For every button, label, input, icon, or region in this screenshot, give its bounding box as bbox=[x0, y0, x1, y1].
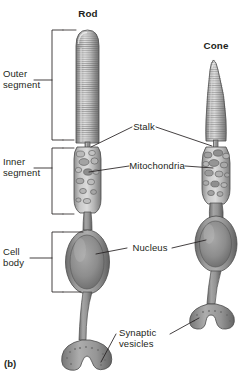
label-mitochondria: Mitochondria bbox=[128, 160, 186, 171]
cone-synaptic-terminal bbox=[190, 304, 235, 329]
rod-cell bbox=[62, 28, 112, 370]
rod-title: Rod bbox=[62, 8, 114, 19]
rod-cell-body bbox=[66, 230, 110, 294]
figure-caption: (b) bbox=[4, 358, 16, 369]
bracket-inner-segment bbox=[52, 148, 63, 214]
label-nucleus: Nucleus bbox=[128, 242, 172, 253]
cone-title: Cone bbox=[192, 40, 240, 51]
cone-nucleus bbox=[200, 221, 232, 267]
label-synaptic-vesicles: Synaptic vesicles bbox=[119, 327, 175, 349]
leader-stalk-cone bbox=[156, 127, 212, 146]
bracket-cell-body bbox=[52, 232, 63, 292]
photoreceptor-diagram: Rod Cone Outer segment Inner segment Cel… bbox=[0, 0, 245, 378]
bracket-outer-segment bbox=[52, 30, 63, 140]
cone-inner-segment bbox=[202, 147, 230, 204]
cone-cell-body bbox=[195, 216, 237, 272]
label-outer-segment: Outer segment bbox=[3, 68, 51, 90]
cone-outer-segment bbox=[204, 58, 228, 144]
rod-inner-segment bbox=[74, 147, 101, 213]
photoreceptor-artwork bbox=[0, 0, 245, 378]
label-inner-segment: Inner segment bbox=[3, 156, 51, 178]
cone-cell bbox=[190, 58, 237, 329]
label-cell-body: Cell body bbox=[3, 246, 47, 268]
label-stalk: Stalk bbox=[130, 121, 158, 132]
rod-outer-segment bbox=[74, 28, 101, 146]
leader-lines bbox=[30, 30, 213, 362]
